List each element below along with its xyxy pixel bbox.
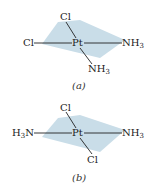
ligand-b-right: NH3 bbox=[122, 128, 144, 140]
caption-a: (a) bbox=[72, 80, 86, 91]
center-atom-b: Pt bbox=[72, 128, 83, 138]
diagram-canvas bbox=[0, 0, 157, 196]
ligand-a-top: Cl bbox=[60, 12, 71, 22]
ligand-a-left: Cl bbox=[23, 38, 34, 48]
ligand-a-right: NH3 bbox=[122, 38, 144, 50]
caption-b: (b) bbox=[72, 172, 86, 183]
ligand-b-bottom: Cl bbox=[87, 155, 98, 165]
square-plane-b bbox=[42, 115, 125, 152]
ligand-b-left: H3N bbox=[12, 128, 34, 140]
center-atom-a: Pt bbox=[72, 38, 83, 48]
ligand-b-top: Cl bbox=[60, 103, 71, 113]
ligand-a-bottom: NH3 bbox=[88, 64, 110, 76]
